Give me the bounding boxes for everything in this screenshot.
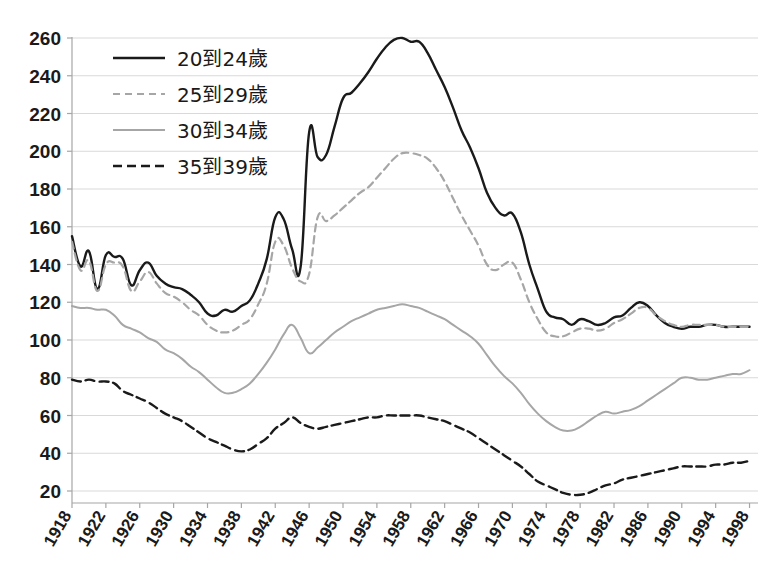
- y-tick-label-220: 220: [29, 104, 61, 125]
- y-tick-label-160: 160: [29, 217, 61, 238]
- x-tick-label-1934: 1934: [176, 507, 212, 550]
- x-tick-label-1966: 1966: [447, 508, 482, 550]
- x-tick-label-1998: 1998: [718, 508, 753, 550]
- series-line-0: [72, 38, 750, 329]
- x-tick-label-1990: 1990: [650, 508, 685, 550]
- series-line-2: [72, 304, 750, 431]
- y-tick-label-80: 80: [40, 368, 61, 389]
- series-line-3: [72, 380, 750, 495]
- y-tick-label-60: 60: [40, 406, 61, 427]
- x-tick-label-1942: 1942: [243, 508, 278, 550]
- axis-group: [67, 37, 758, 508]
- y-tick-label-120: 120: [29, 292, 61, 313]
- x-tick-label-1986: 1986: [616, 508, 651, 550]
- x-tick-label-1918: 1918: [40, 508, 75, 550]
- x-tick-label-1994: 1994: [684, 507, 720, 550]
- y-tick-label-140: 140: [29, 255, 61, 276]
- legend-label-3: 35到39歲: [177, 155, 268, 179]
- line-chart: 20406080100120140160180200220240260 1918…: [0, 0, 782, 576]
- y-axis-tick-labels: 20406080100120140160180200220240260: [29, 28, 61, 502]
- legend-label-2: 30到34歲: [177, 119, 268, 143]
- y-tick-label-260: 260: [29, 28, 61, 49]
- gridlines-group: [72, 38, 758, 491]
- y-tick-label-20: 20: [40, 481, 61, 502]
- y-tick-label-40: 40: [40, 443, 61, 464]
- x-tick-label-1938: 1938: [209, 508, 244, 550]
- legend-label-1: 25到29歲: [177, 83, 268, 107]
- x-tick-label-1982: 1982: [582, 508, 617, 550]
- chart-container: 20406080100120140160180200220240260 1918…: [0, 0, 782, 576]
- x-tick-label-1970: 1970: [480, 508, 515, 550]
- x-tick-label-1958: 1958: [379, 508, 414, 550]
- x-tick-label-1954: 1954: [345, 507, 381, 550]
- x-tick-label-1946: 1946: [277, 508, 312, 550]
- chart-svg: 20406080100120140160180200220240260 1918…: [0, 0, 782, 576]
- x-tick-label-1978: 1978: [548, 508, 583, 550]
- y-tick-label-200: 200: [29, 141, 61, 162]
- series-line-1: [72, 152, 750, 336]
- x-tick-label-1926: 1926: [108, 508, 143, 550]
- y-tick-label-180: 180: [29, 179, 61, 200]
- legend-label-0: 20到24歲: [177, 47, 268, 71]
- x-tick-label-1950: 1950: [311, 508, 346, 550]
- data-series-group: [72, 38, 750, 495]
- x-axis-tick-labels: 1918192219261930193419381942194619501954…: [40, 507, 753, 550]
- x-tick-label-1930: 1930: [142, 508, 177, 550]
- x-tick-label-1962: 1962: [413, 508, 448, 550]
- y-tick-label-100: 100: [29, 330, 61, 351]
- y-tick-label-240: 240: [29, 66, 61, 87]
- x-tick-label-1922: 1922: [74, 508, 109, 550]
- x-tick-label-1974: 1974: [514, 507, 550, 550]
